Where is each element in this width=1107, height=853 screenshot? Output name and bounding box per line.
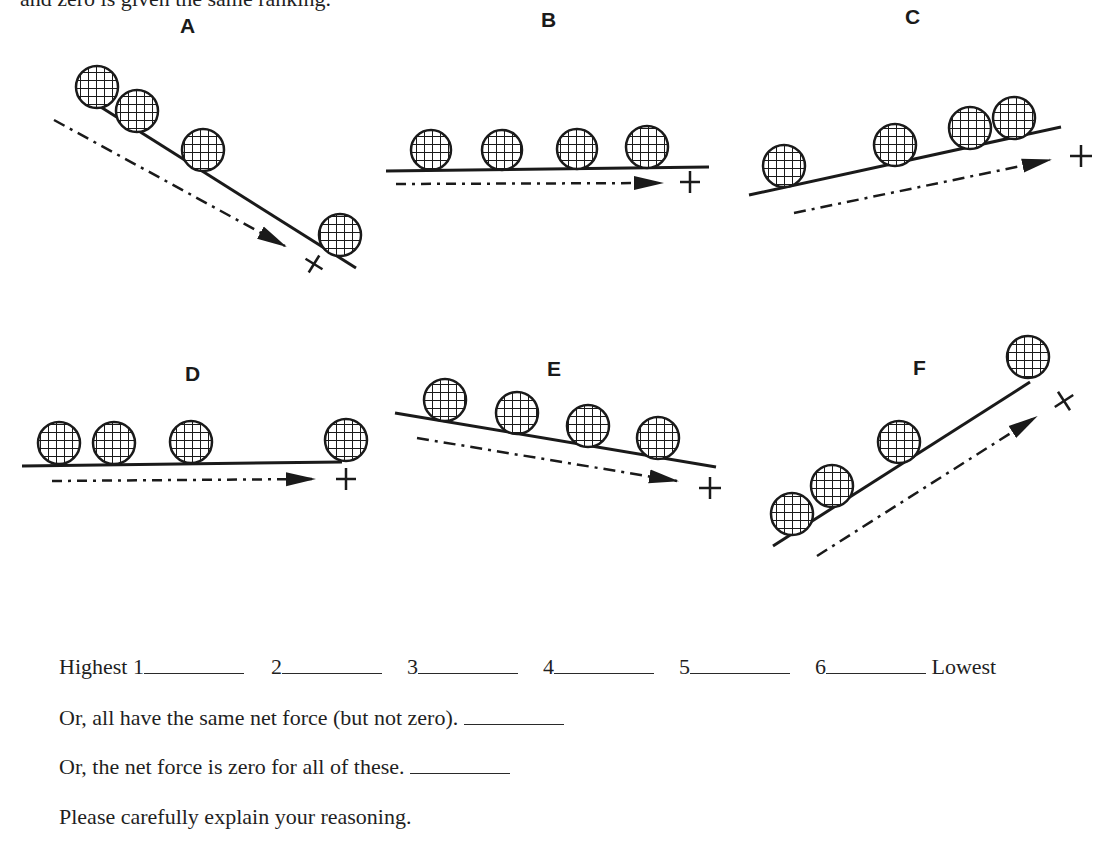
- rank-blank-6[interactable]: [826, 672, 926, 674]
- diagram-e: E: [395, 357, 721, 499]
- direction-arrow: [794, 160, 1050, 213]
- diagram-b: B: [386, 8, 709, 193]
- rank-slot-4: 4: [543, 654, 654, 680]
- plus-direction-icon: [336, 468, 356, 490]
- ball-icon: [93, 422, 135, 464]
- diagram-label-d: D: [185, 362, 200, 385]
- rank-slot-2: 2: [271, 654, 382, 680]
- diagram-label-f: F: [913, 356, 926, 379]
- lowest-label: Lowest: [931, 654, 996, 679]
- ball-icon: [626, 126, 668, 168]
- diagram-d: D: [22, 362, 367, 490]
- ball-icon: [567, 405, 609, 447]
- ball-icon: [411, 130, 451, 170]
- ball-icon: [76, 66, 118, 108]
- ball-diagrams: A B C: [0, 0, 1107, 600]
- diagram-label-c: C: [905, 5, 920, 28]
- alternative-same-net-force: Or, all have the same net force (but not…: [59, 705, 564, 731]
- direction-arrow: [54, 120, 285, 246]
- zero-net-force-blank[interactable]: [410, 772, 510, 774]
- plus-direction-icon: [1049, 386, 1079, 416]
- diagram-a: A: [54, 14, 361, 278]
- ball-icon: [763, 145, 805, 187]
- alternative-zero-net-force: Or, the net force is zero for all of the…: [59, 754, 510, 780]
- rank-blank-1[interactable]: [144, 672, 244, 674]
- diagram-label-a: A: [180, 14, 195, 37]
- plus-direction-icon: [300, 250, 328, 278]
- ball-icon: [424, 379, 466, 421]
- reasoning-instruction: Please carefully explain your reasoning.: [59, 804, 411, 830]
- ball-icon: [325, 419, 367, 461]
- diagram-f: F: [771, 336, 1079, 556]
- ball-icon: [1007, 336, 1049, 378]
- direction-arrow: [396, 183, 662, 184]
- diagram-label-b: B: [541, 8, 556, 31]
- rank-slot-1: 1: [133, 654, 244, 680]
- same-net-force-blank[interactable]: [464, 723, 564, 725]
- diagram-c: C: [749, 5, 1092, 213]
- ball-icon: [38, 422, 80, 464]
- ball-icon: [874, 124, 916, 166]
- direction-arrow: [52, 479, 314, 481]
- plus-direction-icon: [699, 477, 721, 499]
- rank-blank-4[interactable]: [554, 672, 654, 674]
- plus-direction-icon: [680, 171, 700, 193]
- ball-icon: [319, 214, 361, 256]
- rank-slot-6: 6: [815, 654, 926, 680]
- ball-icon: [637, 417, 679, 459]
- ball-icon: [993, 97, 1035, 139]
- ball-icon: [496, 392, 538, 434]
- ball-icon: [557, 129, 597, 169]
- plus-direction-icon: [1070, 145, 1092, 167]
- highest-label: Highest: [59, 654, 127, 679]
- ball-icon: [482, 130, 522, 170]
- ranking-row: Highest 1 2 3 4 5 6 Lowest: [59, 654, 996, 680]
- rank-blank-5[interactable]: [690, 672, 790, 674]
- rank-blank-3[interactable]: [418, 672, 518, 674]
- ball-icon: [878, 421, 920, 463]
- worksheet-page: and zero is given the same ranking. A: [0, 0, 1107, 853]
- incline-line: [22, 462, 342, 466]
- ball-icon: [949, 107, 991, 149]
- ball-icon: [170, 421, 212, 463]
- rank-blank-2[interactable]: [282, 672, 382, 674]
- rank-slot-5: 5: [679, 654, 790, 680]
- ball-icon: [182, 129, 224, 171]
- rank-slot-3: 3: [407, 654, 518, 680]
- ball-icon: [811, 465, 853, 507]
- ball-icon: [116, 90, 158, 132]
- ball-icon: [771, 493, 813, 535]
- diagram-label-e: E: [547, 357, 561, 380]
